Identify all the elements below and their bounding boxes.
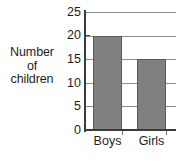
y-tick-label-0: 0 <box>57 124 81 136</box>
y-tick-label-25: 25 <box>57 6 81 18</box>
y-axis-title: Number of children <box>2 46 62 87</box>
gridline-25 <box>85 12 176 13</box>
y-axis-title-line-1: Number <box>2 46 62 60</box>
y-tick-label-15: 15 <box>57 53 81 65</box>
bar-chart-figure: Number of children 25 20 15 10 5 0 Boys … <box>0 0 191 162</box>
x-axis-label-girls: Girls <box>129 134 174 149</box>
y-axis-title-line-3: children <box>2 73 62 87</box>
y-axis-tick-labels: 25 20 15 10 5 0 <box>57 0 81 162</box>
y-tick-label-5: 5 <box>57 100 81 112</box>
y-tick-label-10: 10 <box>57 77 81 89</box>
bar-girls <box>137 59 166 130</box>
bar-boys <box>93 36 122 130</box>
plot-area <box>85 12 176 130</box>
y-tick-label-20: 20 <box>57 29 81 41</box>
y-axis-line <box>84 10 86 132</box>
x-axis-line <box>84 129 176 131</box>
x-axis-label-boys: Boys <box>85 134 130 149</box>
y-axis-title-line-2: of <box>2 60 62 74</box>
